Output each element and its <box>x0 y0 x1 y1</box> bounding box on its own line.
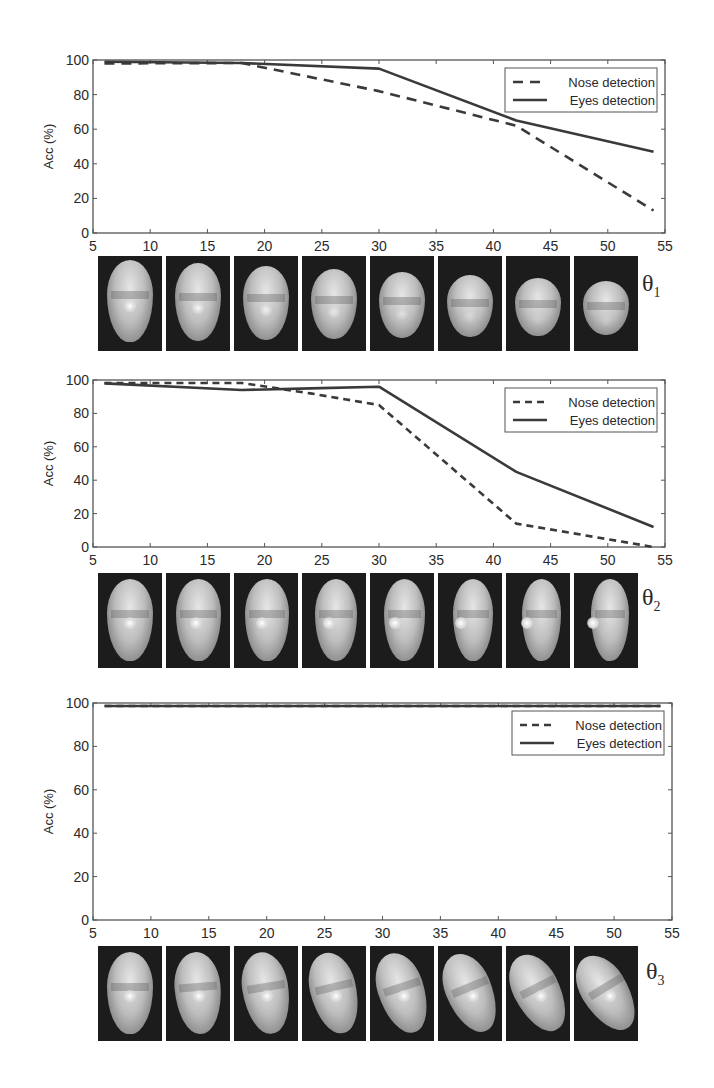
legend-entry: Eyes detection <box>577 736 662 751</box>
legend-entry: Nose detection <box>575 718 662 733</box>
y-tick-label: 80 <box>73 738 89 754</box>
x-tick-label: 50 <box>606 925 622 941</box>
x-tick-label: 35 <box>433 925 449 941</box>
theta3-label: θ3 <box>646 958 665 989</box>
y-tick-label: 100 <box>66 695 90 711</box>
x-tick-label: 25 <box>317 925 333 941</box>
x-tick-label: 40 <box>491 925 507 941</box>
x-tick-label: 5 <box>89 925 97 941</box>
face-image <box>506 946 570 1041</box>
x-tick-label: 30 <box>375 925 391 941</box>
x-tick-label: 45 <box>548 925 564 941</box>
face-image <box>438 946 502 1041</box>
x-tick-label: 15 <box>201 925 217 941</box>
panel-theta3: 510152025303540455055020406080100Acc (%)… <box>0 0 714 1088</box>
face-image <box>234 946 298 1041</box>
x-tick-label: 10 <box>143 925 159 941</box>
face-image <box>302 946 366 1041</box>
y-tick-label: 40 <box>73 825 89 841</box>
face-image <box>166 946 230 1041</box>
y-tick-label: 0 <box>81 912 89 928</box>
face-image <box>574 946 638 1041</box>
face-strip-theta3 <box>98 946 638 1041</box>
chart-theta3: 510152025303540455055020406080100Acc (%)… <box>0 0 714 960</box>
x-tick-label: 20 <box>259 925 275 941</box>
legend: Nose detectionEyes detection <box>512 711 664 755</box>
face-image <box>98 946 162 1041</box>
face-image <box>370 946 434 1041</box>
y-axis-label: Acc (%) <box>41 789 56 835</box>
y-tick-label: 60 <box>73 782 89 798</box>
x-tick-label: 55 <box>664 925 680 941</box>
y-tick-label: 20 <box>73 869 89 885</box>
